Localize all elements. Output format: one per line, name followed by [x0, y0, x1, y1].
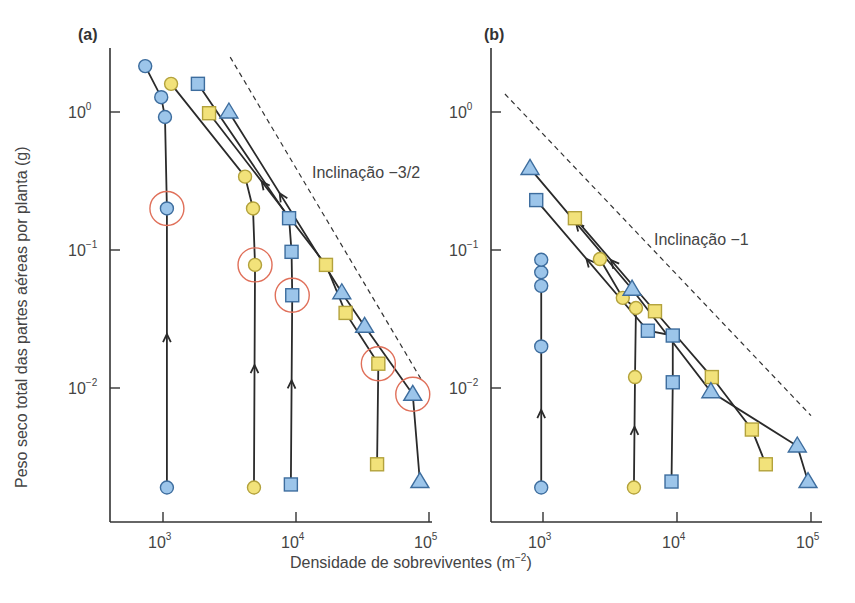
data-point-square: [745, 423, 758, 436]
data-point-square: [286, 289, 299, 302]
y-tick-label: 10−2: [449, 377, 479, 397]
data-point-square: [759, 458, 772, 471]
figure: Peso seco total das partes aéreas por pl…: [0, 0, 855, 603]
data-point-square: [285, 245, 298, 258]
data-point-circle: [629, 371, 642, 384]
data-point-circle: [160, 202, 173, 215]
data-point-circle: [629, 301, 642, 314]
data-point-circle: [249, 258, 262, 271]
y-tick-label: 100: [68, 101, 92, 121]
data-point-circle: [247, 481, 260, 494]
reference-slope-line: [505, 94, 811, 416]
data-point-circle: [535, 481, 548, 494]
y-tick-label: 10−1: [68, 239, 98, 259]
y-tick-label: 10−2: [68, 377, 98, 397]
data-point-square: [371, 458, 384, 471]
data-point-square: [191, 77, 204, 90]
data-point-square: [666, 329, 679, 342]
data-point-triangle: [799, 473, 817, 488]
data-point-square: [705, 371, 718, 384]
reference-slope-line: [230, 57, 423, 382]
y-tick-label: 100: [449, 101, 473, 121]
data-point-circle: [535, 279, 548, 292]
panel-b: (b)10310410510010−110−2Inclinação −1: [449, 26, 822, 551]
panel-label: (b): [484, 26, 504, 43]
data-point-circle: [160, 481, 173, 494]
data-point-square: [568, 212, 581, 225]
series-lines: [145, 66, 420, 487]
data-point-circle: [239, 170, 252, 183]
data-point-circle: [155, 91, 168, 104]
data-point-square: [530, 194, 543, 207]
x-tick-label: 103: [148, 531, 172, 551]
x-tick-label: 105: [796, 531, 820, 551]
y-axis-title: Peso seco total das partes aéreas por pl…: [13, 146, 30, 488]
data-point-square: [648, 305, 661, 318]
panel-label: (a): [78, 26, 98, 43]
data-point-triangle: [404, 385, 422, 400]
data-point-circle: [535, 340, 548, 353]
data-point-triangle: [788, 437, 806, 452]
data-point-square: [641, 324, 654, 337]
data-point-square: [372, 357, 385, 370]
data-point-circle: [627, 481, 640, 494]
data-point-circle: [139, 60, 152, 73]
x-tick-label: 104: [662, 531, 686, 551]
data-point-circle: [158, 110, 171, 123]
data-point-circle: [247, 202, 260, 215]
x-tick-label: 105: [414, 531, 438, 551]
data-point-square: [665, 475, 678, 488]
slope-annotation: Inclinação −3/2: [312, 164, 420, 181]
data-point-square: [666, 376, 679, 389]
slope-annotation: Inclinação −1: [654, 231, 749, 248]
x-axis-title: Densidade de sobreviventes (m−2): [290, 552, 532, 571]
panel-a: (a)10310410510010−110−2Inclinação −3/2: [68, 26, 438, 551]
x-tick-label: 104: [281, 531, 305, 551]
data-point-circle: [165, 77, 178, 90]
data-point-circle: [535, 266, 548, 279]
data-point-triangle: [220, 103, 238, 118]
data-point-triangle: [521, 159, 539, 174]
y-tick-label: 10−1: [449, 239, 479, 259]
data-point-square: [284, 478, 297, 491]
data-point-triangle: [411, 473, 429, 488]
data-point-circle: [535, 253, 548, 266]
data-point-square: [319, 258, 332, 271]
x-tick-label: 103: [528, 531, 552, 551]
data-point-square: [203, 107, 216, 120]
data-point-square: [339, 306, 352, 319]
data-point-square: [283, 212, 296, 225]
data-point-triangle: [356, 317, 374, 332]
data-point-circle: [593, 253, 606, 266]
